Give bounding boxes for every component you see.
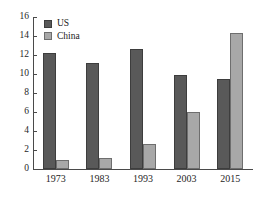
bar-group bbox=[78, 17, 122, 169]
legend-label-china: China bbox=[57, 32, 80, 42]
y-axis-tick-label: 4 bbox=[24, 126, 29, 136]
x-axis-tick-label: 1983 bbox=[78, 174, 122, 184]
bar-us[interactable] bbox=[217, 79, 230, 169]
bar-china[interactable] bbox=[56, 160, 69, 170]
bar-china[interactable] bbox=[99, 158, 112, 169]
y-axis-tick-label: 2 bbox=[24, 145, 29, 155]
x-axis-tick-label: 1973 bbox=[34, 174, 78, 184]
y-axis-tick-label: 12 bbox=[20, 50, 30, 60]
bar-us[interactable] bbox=[43, 53, 56, 169]
y-axis-tick-label: 16 bbox=[20, 12, 30, 22]
bar-chart: 0246810121416 19731983199320032015 US Ch… bbox=[0, 0, 264, 201]
bar-china[interactable] bbox=[187, 112, 200, 169]
y-axis-tick-label: 8 bbox=[24, 88, 29, 98]
bar-us[interactable] bbox=[86, 63, 99, 169]
x-axis-tick-label: 2015 bbox=[208, 174, 252, 184]
x-axis-line bbox=[33, 169, 253, 170]
bar-group bbox=[208, 17, 252, 169]
legend: US China bbox=[44, 19, 80, 41]
bar-china[interactable] bbox=[230, 33, 243, 169]
bar-group bbox=[121, 17, 165, 169]
bar-us[interactable] bbox=[130, 49, 143, 169]
x-axis-tick-label: 1993 bbox=[121, 174, 165, 184]
legend-item-china: China bbox=[44, 32, 80, 42]
x-axis-tick-label: 2003 bbox=[165, 174, 209, 184]
legend-swatch-icon-us bbox=[44, 20, 52, 28]
x-axis-labels: 19731983199320032015 bbox=[34, 174, 252, 184]
y-axis-tick-label: 14 bbox=[20, 31, 30, 41]
legend-item-us: US bbox=[44, 19, 80, 29]
y-axis-tick-label: 6 bbox=[24, 107, 29, 117]
bar-us[interactable] bbox=[174, 75, 187, 169]
bar-china[interactable] bbox=[143, 144, 156, 169]
bar-group bbox=[165, 17, 209, 169]
y-axis-tick-mark bbox=[33, 169, 37, 170]
y-axis-tick-label: 10 bbox=[20, 69, 30, 79]
legend-label-us: US bbox=[57, 19, 69, 29]
legend-swatch-icon-china bbox=[44, 32, 52, 40]
y-axis-tick-label: 0 bbox=[24, 164, 29, 174]
